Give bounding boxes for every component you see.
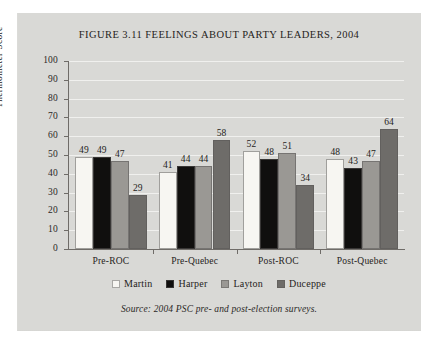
bar	[129, 195, 147, 250]
legend-item: Duceppe	[277, 278, 326, 289]
y-axis-tick-label: 100	[28, 55, 58, 65]
y-axis-tick-label: 10	[28, 224, 58, 234]
y-axis-tick-label: 20	[28, 205, 58, 215]
bar	[326, 159, 344, 249]
x-axis-category-label: Post-ROC	[237, 256, 321, 266]
legend-label: Harper	[178, 278, 207, 289]
legend-swatch	[112, 280, 120, 288]
legend-label: Martin	[124, 278, 152, 289]
x-axis-tick	[237, 250, 238, 254]
y-axis-tick	[64, 80, 68, 81]
bar	[195, 166, 213, 249]
y-axis-tick-label: 60	[28, 130, 58, 140]
bar-value-label: 34	[293, 173, 317, 183]
legend-item: Harper	[166, 278, 207, 289]
figure-panel: FIGURE 3.11 FEELINGS ABOUT PARTY LEADERS…	[17, 13, 421, 331]
y-axis-tick-label: 70	[28, 111, 58, 121]
bar	[260, 159, 278, 249]
bar-value-label: 51	[275, 141, 299, 151]
y-axis-tick-label: 80	[28, 93, 58, 103]
bar	[111, 161, 129, 249]
y-axis-tick-label: 40	[28, 168, 58, 178]
y-axis-tick-label: 30	[28, 187, 58, 197]
bar	[159, 172, 177, 249]
bar-value-label: 64	[377, 117, 401, 127]
x-axis-tick	[153, 250, 154, 254]
legend-swatch	[277, 280, 285, 288]
y-axis-tick-label: 50	[28, 149, 58, 159]
y-axis-tick	[64, 99, 68, 100]
bar-value-label: 29	[126, 183, 150, 193]
y-axis-tick	[64, 155, 68, 156]
bar	[380, 129, 398, 249]
y-axis-tick	[64, 117, 68, 118]
y-axis-tick	[64, 211, 68, 212]
y-axis-tick-label: 0	[28, 243, 58, 253]
bar-value-label: 47	[108, 149, 132, 159]
y-axis-tick-label: 90	[28, 74, 58, 84]
y-axis-tick	[64, 249, 68, 250]
y-axis-tick	[64, 174, 68, 175]
y-axis-tick	[64, 136, 68, 137]
bar-value-label: 44	[192, 154, 216, 164]
y-axis-tick	[64, 230, 68, 231]
bar	[296, 185, 314, 249]
bar	[75, 157, 93, 249]
x-axis-category-label: Pre-ROC	[69, 256, 153, 266]
legend-item: Martin	[112, 278, 152, 289]
legend-swatch	[221, 280, 229, 288]
bar	[243, 151, 261, 249]
legend-swatch	[166, 280, 174, 288]
bar-value-label: 58	[210, 128, 234, 138]
y-axis-title: Thermometer Score	[0, 26, 4, 108]
bar-value-label: 47	[359, 149, 383, 159]
x-axis-category-label: Pre-Quebec	[153, 256, 237, 266]
bar	[93, 157, 111, 249]
figure-title: FIGURE 3.11 FEELINGS ABOUT PARTY LEADERS…	[17, 29, 421, 40]
bar	[362, 161, 380, 249]
legend-label: Layton	[233, 278, 263, 289]
source-note: Source: 2004 PSC pre- and post-election …	[17, 304, 421, 314]
bar	[177, 166, 195, 249]
legend-item: Layton	[221, 278, 263, 289]
bar	[344, 168, 362, 249]
y-axis-tick	[64, 61, 68, 62]
chart-legend: MartinHarperLaytonDuceppe	[17, 278, 421, 289]
bar	[278, 153, 296, 249]
x-axis-tick	[320, 250, 321, 254]
y-axis-tick	[64, 193, 68, 194]
legend-label: Duceppe	[289, 278, 326, 289]
x-axis-category-label: Post-Quebec	[320, 256, 404, 266]
